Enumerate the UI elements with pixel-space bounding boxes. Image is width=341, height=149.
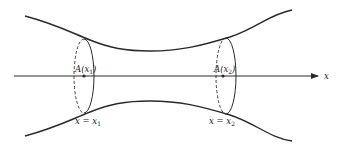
position-label-1: x = x1 bbox=[75, 116, 101, 127]
cross-section-1-center-dot bbox=[82, 74, 85, 77]
lower-boundary-curve bbox=[25, 101, 292, 141]
x-axis-label: x bbox=[324, 71, 329, 81]
area-label-2: A(x2) bbox=[213, 64, 235, 75]
cross-section-2-center-dot bbox=[221, 74, 224, 77]
diagram-canvas: x A(x1) x = x1 A(x2) x = x2 bbox=[0, 0, 341, 149]
upper-boundary-curve bbox=[25, 10, 292, 51]
area-label-1: A(x1) bbox=[74, 64, 96, 75]
position-label-2: x = x2 bbox=[209, 116, 235, 127]
